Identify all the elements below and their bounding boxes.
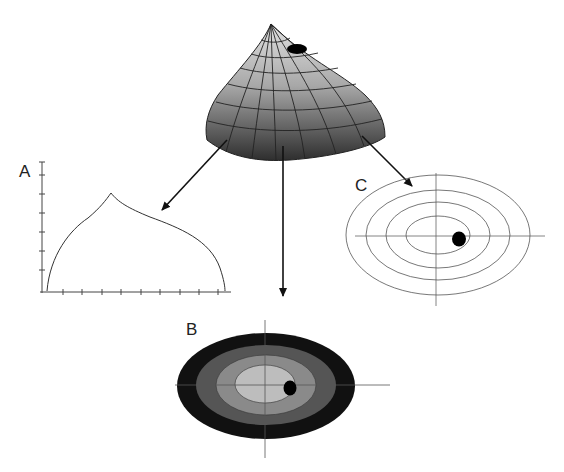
surface-plot <box>206 24 385 161</box>
panel-b-point <box>284 381 297 396</box>
panel-a-profile <box>39 162 231 295</box>
arrow-to-a <box>162 140 227 210</box>
diagram-canvas <box>0 0 564 472</box>
surface-point <box>287 44 307 54</box>
panel-b-filled-contours <box>175 320 390 458</box>
panel-c-point <box>452 232 466 247</box>
arrow-to-c <box>362 136 412 186</box>
panel-a-label: A <box>19 163 30 180</box>
panel-a-ticks <box>39 162 218 295</box>
panel-b-label: B <box>186 321 197 338</box>
panel-c-label: C <box>355 177 367 194</box>
panel-c-line-contours <box>346 173 545 306</box>
